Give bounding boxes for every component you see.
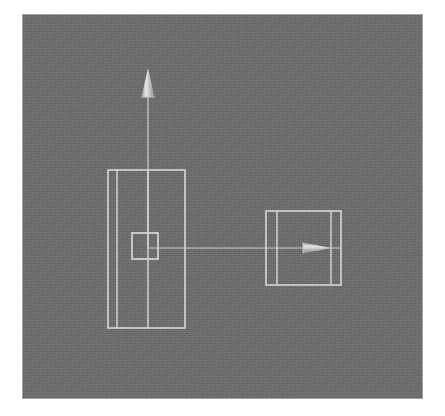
- viewport-canvas[interactable]: [22, 14, 423, 399]
- selection-handle-square[interactable]: [132, 233, 158, 259]
- tall-box-outline[interactable]: [108, 170, 185, 328]
- scene-svg[interactable]: [22, 14, 423, 399]
- right-direction-gizmo[interactable]: [303, 243, 331, 254]
- tall-box-wireframe[interactable]: [108, 170, 185, 328]
- up-gizmo-cone-icon: [142, 68, 155, 97]
- right-gizmo-cone-icon: [303, 243, 331, 254]
- screenshot-root: [0, 0, 445, 416]
